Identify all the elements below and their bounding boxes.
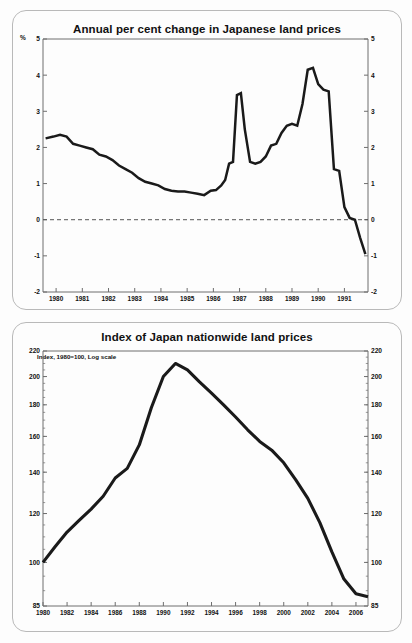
x-tick-label: 1996	[228, 609, 243, 616]
x-tick-label: 1994	[204, 609, 219, 616]
y-tick-label: 85	[371, 602, 379, 609]
y-tick-label: 120	[29, 510, 40, 517]
index-chart-svg: 8585100100120120140140160160180180200200…	[0, 0, 412, 643]
x-tick-label: 1982	[60, 609, 75, 616]
y-tick-label: 100	[371, 559, 382, 566]
x-tick-label: 1984	[84, 609, 99, 616]
y-tick-label: 220	[371, 347, 382, 354]
x-tick-label: 2000	[277, 609, 292, 616]
x-tick-label: 1992	[180, 609, 195, 616]
y-tick-label: 120	[371, 510, 382, 517]
y-tick-label: 100	[29, 559, 40, 566]
y-tick-label: 180	[371, 401, 382, 408]
y-tick-label: 160	[29, 433, 40, 440]
x-tick-label: 1986	[108, 609, 123, 616]
x-tick-label: 1990	[156, 609, 171, 616]
y-tick-label: 140	[29, 469, 40, 476]
y-tick-label: 140	[371, 469, 382, 476]
page-root: Annual per cent change in Japanese land …	[0, 0, 412, 643]
data-series-line	[43, 363, 368, 596]
x-tick-label: 2006	[349, 609, 364, 616]
y-tick-label: 200	[371, 373, 382, 380]
y-tick-label: 220	[29, 347, 40, 354]
y-tick-label: 180	[29, 401, 40, 408]
x-tick-label: 1988	[132, 609, 147, 616]
x-tick-label: 1980	[36, 609, 51, 616]
y-tick-label: 160	[371, 433, 382, 440]
x-tick-label: 1998	[253, 609, 268, 616]
x-tick-label: 2004	[325, 609, 340, 616]
x-tick-label: 2002	[301, 609, 316, 616]
y-tick-label: 200	[29, 373, 40, 380]
index-chart: 8585100100120120140140160160180180200200…	[0, 0, 412, 643]
